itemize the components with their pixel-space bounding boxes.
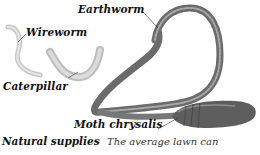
earthworm-image (94, 8, 225, 117)
figure-caption: Natural supplies The average lawn can (2, 135, 218, 147)
caption-heading: Natural supplies (2, 135, 100, 147)
earthworm-leader-line (143, 12, 158, 28)
caterpillar-label: Caterpillar (3, 80, 68, 92)
moth-chrysalis-label: Moth chrysalis (74, 118, 162, 130)
caption-text: The average lawn can (107, 136, 218, 147)
creatures-illustration (0, 0, 260, 155)
earthworm-label: Earthworm (78, 3, 144, 15)
wireworm-label: Wireworm (26, 26, 87, 38)
caterpillar-image (50, 50, 100, 77)
